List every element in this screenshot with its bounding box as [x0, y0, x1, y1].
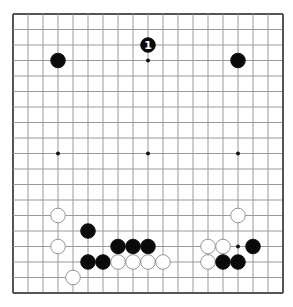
white-stone[interactable] [126, 255, 141, 270]
star-point [146, 59, 150, 63]
white-stone[interactable] [156, 255, 171, 270]
stones-layer: 1 [51, 38, 261, 285]
go-board[interactable]: 1 [0, 0, 293, 307]
black-stone[interactable] [231, 53, 246, 68]
white-stone[interactable] [51, 239, 66, 254]
white-stone[interactable] [231, 208, 246, 223]
star-point [236, 245, 240, 249]
white-stone[interactable] [201, 255, 216, 270]
white-stone[interactable] [201, 239, 216, 254]
move-number-label: 1 [144, 39, 152, 52]
black-stone[interactable] [111, 239, 126, 254]
black-stone[interactable] [126, 239, 141, 254]
star-point [146, 152, 150, 156]
black-stone[interactable] [216, 255, 231, 270]
white-stone[interactable] [51, 208, 66, 223]
black-stone[interactable] [231, 255, 246, 270]
star-point [56, 152, 60, 156]
white-stone[interactable] [111, 255, 126, 270]
black-stone[interactable] [51, 53, 66, 68]
black-stone[interactable] [81, 224, 96, 239]
black-stone[interactable] [141, 239, 156, 254]
black-stone[interactable]: 1 [141, 38, 156, 53]
white-stone[interactable] [66, 270, 81, 285]
black-stone[interactable] [246, 239, 261, 254]
black-stone[interactable] [81, 255, 96, 270]
black-stone[interactable] [96, 255, 111, 270]
white-stone[interactable] [141, 255, 156, 270]
star-point [236, 152, 240, 156]
white-stone[interactable] [216, 239, 231, 254]
